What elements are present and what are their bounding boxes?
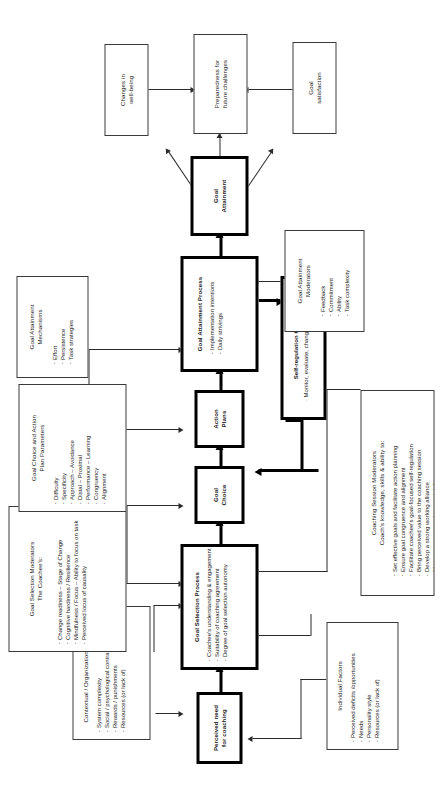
node-action-plans[interactable]: Action Plans xyxy=(194,390,244,448)
arrowhead-gsmod-to-choice xyxy=(178,503,183,509)
list-item: Bring perceived value to the coaching se… xyxy=(414,391,422,577)
node-changes-in-wellbeing-title: Changes in well-being xyxy=(118,45,134,135)
connector-process-to-attainment xyxy=(219,236,222,256)
node-goal-attainment-mechanisms[interactable]: Goal Attainment Mechanisms Effort Persis… xyxy=(16,276,88,378)
list-item: Implementation intentions xyxy=(207,259,215,355)
node-goal-attainment[interactable]: Goal Attainment xyxy=(190,156,248,236)
list-item: Distal – Proximal xyxy=(75,385,83,505)
list-item: Resources (or lack of) xyxy=(372,623,380,743)
connector-wellbeing-to-preparedness xyxy=(147,89,193,90)
connector-contextual-to-selection-v xyxy=(153,605,180,606)
list-item: Effort xyxy=(50,277,58,365)
list-item: Persistence xyxy=(58,277,66,365)
list-item: Cognitive hardiness / Resilience xyxy=(63,507,71,645)
list-item: Degree of goal selection autonomy xyxy=(220,547,228,662)
node-goal-attainment-process[interactable]: Goal Attainment Process Implementation i… xyxy=(180,256,258,372)
connector-selection-to-choice xyxy=(219,524,222,544)
node-goal-attainment-moderators-bullets: Feedback Commitment Ability Task complex… xyxy=(318,231,350,331)
connector-contextual-to-selection-h xyxy=(153,606,154,652)
node-goal-selection-moderators-bullets: Change readiness – Stage of Change Cogni… xyxy=(55,507,87,651)
connector-plans-to-process xyxy=(219,372,222,390)
list-item: Approach – Avoidance xyxy=(67,385,75,505)
connector-mech-to-process-v xyxy=(88,349,180,350)
connector-contextual-to-need-v xyxy=(155,713,180,714)
node-individual-factors[interactable]: Individual Factors Perceived deficits /o… xyxy=(326,622,398,750)
list-item: Personality style xyxy=(364,623,372,743)
list-item: Daily strivings xyxy=(215,259,223,355)
node-goal-attainment-mechanisms-bullets: Effort Persistence Task strategies xyxy=(50,277,74,377)
node-goal-selection-process[interactable]: Goal Selection Process Coachee's underst… xyxy=(180,544,258,670)
list-item: Ensure goal congruence and alignment xyxy=(398,391,406,577)
node-goal-selection-process-title: Goal Selection Process xyxy=(192,547,200,667)
connector-csmod-to-selection-v xyxy=(258,571,327,572)
list-item: Feedback xyxy=(318,231,326,317)
list-item: Alignment xyxy=(99,385,107,505)
diagram-canvas: Perceived need for coaching Goal Selecti… xyxy=(0,0,441,802)
node-goal-attainment-title: Goal Attainment xyxy=(211,159,227,233)
list-item: Needs xyxy=(356,623,364,743)
connector-gsmod-to-selection xyxy=(120,583,180,584)
node-action-plans-title: Action Plans xyxy=(211,393,227,445)
list-item: Congruency xyxy=(91,385,99,505)
node-preparedness[interactable]: Preparedness for future challenges xyxy=(193,34,247,134)
connector-individual-riser xyxy=(300,679,326,680)
list-item: Suitability of coaching agreement xyxy=(212,547,220,662)
node-goal-choice-parameters[interactable]: Goal Choice and Action Plan Parameters D… xyxy=(18,384,126,512)
node-goal-selection-process-bullets: Coachee's understanding & engagement Sui… xyxy=(204,547,228,667)
node-goal-attainment-moderators-title: Goal Attainment Moderators xyxy=(295,231,311,331)
node-coaching-session-moderators-bullets: Set effective goals and facilitate actio… xyxy=(390,391,434,595)
list-item: Specificity xyxy=(59,385,67,505)
connector-individual-to-selection-v xyxy=(258,635,310,636)
connector-satisfaction-to-preparedness xyxy=(248,89,294,90)
connector-srcycle-to-choice-v xyxy=(258,469,302,472)
node-goal-attainment-mechanisms-title: Goal Attainment Mechanisms xyxy=(27,277,43,377)
list-item: Change readiness – Stage of Change xyxy=(55,507,63,645)
node-coaching-session-moderators-title: Coaching Session Moderators Coach's know… xyxy=(369,391,385,595)
connector-individual-to-need-v xyxy=(252,738,301,739)
connector-individual-to-need xyxy=(300,679,301,739)
node-perceived-need[interactable]: Perceived need for coaching xyxy=(196,692,242,764)
connector-individual-to-selection-h xyxy=(310,614,311,636)
list-item: Coachee's understanding & engagement xyxy=(204,547,212,662)
node-goal-choice[interactable]: Goal Choice xyxy=(194,466,244,524)
list-item: Manage process and accountability xyxy=(430,391,434,577)
node-goal-attainment-process-title: Goal Attainment Process xyxy=(195,259,203,369)
node-preparedness-title: Preparedness for future challenges xyxy=(212,35,228,133)
diagram-rotation-wrapper: Perceived need for coaching Goal Selecti… xyxy=(0,0,441,802)
list-item: Set effective goals and facilitate actio… xyxy=(390,391,398,577)
list-item: Task complexity xyxy=(342,231,350,317)
node-perceived-need-title: Perceived need for coaching xyxy=(211,695,227,761)
list-item: Commitment xyxy=(326,231,334,317)
list-item: Ability xyxy=(334,231,342,317)
connector-need-to-selection xyxy=(219,670,222,692)
node-goal-choice-title: Goal Choice xyxy=(211,469,227,521)
node-changes-in-wellbeing[interactable]: Changes in well-being xyxy=(104,44,148,136)
node-goal-satisfaction[interactable]: Goal satisfaction xyxy=(292,42,336,134)
list-item: Develop a strong working alliance xyxy=(422,391,430,577)
connector-choice-to-plans xyxy=(219,448,222,466)
node-goal-satisfaction-title: Goal satisfaction xyxy=(306,43,322,133)
list-item: Difficulty xyxy=(51,385,59,505)
node-individual-factors-bullets: Perceived deficits /opportunities Needs … xyxy=(348,623,380,749)
arrowhead-individual-to-need xyxy=(247,736,252,742)
connector-csmod-to-srcycle xyxy=(338,389,360,390)
connector-srcycle-return-h xyxy=(300,420,303,472)
node-goal-choice-parameters-title: Goal Choice and Action Plan Parameters xyxy=(29,385,45,511)
node-goal-selection-moderators-title: Goal Selection Moderators The Coachee's: xyxy=(27,507,43,651)
node-goal-attainment-moderators[interactable]: Goal Attainment Moderators Feedback Comm… xyxy=(284,230,364,332)
connector-gsmod-to-choice-v xyxy=(126,505,180,506)
list-item: Task strategies xyxy=(66,277,74,365)
list-item: Perceived deficits /opportunities xyxy=(348,623,356,743)
node-coaching-session-moderators[interactable]: Coaching Session Moderators Coach's know… xyxy=(360,390,434,596)
list-item: Performance – Learning xyxy=(83,385,91,505)
list-item: Perceived locus of causality xyxy=(79,507,87,645)
node-goal-selection-moderators[interactable]: Goal Selection Moderators The Coachee's:… xyxy=(8,506,126,652)
arrowhead-params-to-plans xyxy=(178,427,183,433)
list-item: Mindfulness / Focus – Ability to focus o… xyxy=(71,507,79,645)
list-item: Facilitate coachee's goal-focused self-r… xyxy=(406,391,414,577)
node-individual-factors-title: Individual Factors xyxy=(335,623,343,749)
arrowhead-contextual-to-need xyxy=(178,711,183,717)
node-goal-attainment-process-bullets: Implementation intentions Daily striving… xyxy=(207,259,223,369)
node-goal-choice-parameters-bullets: Difficulty Specificity Approach – Avoida… xyxy=(51,385,108,511)
